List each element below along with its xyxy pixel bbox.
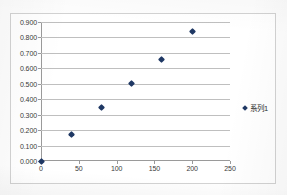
x-axis-tick-mark [154, 161, 155, 164]
data-point [98, 104, 105, 111]
y-axis-tick-label: 0.300 [20, 111, 37, 118]
chart-frame[interactable]: 0.0000.1000.2000.3000.4000.5000.6000.700… [10, 13, 276, 184]
gridline [41, 22, 230, 23]
x-axis-tick-mark [230, 161, 231, 164]
y-axis-tick-mark [38, 53, 41, 54]
y-axis-tick-mark [38, 68, 41, 69]
y-axis-tick-label: 0.100 [20, 142, 37, 149]
x-axis-tick-label: 250 [224, 165, 235, 172]
gridline [41, 115, 230, 116]
data-point [158, 56, 165, 63]
gridline [41, 53, 230, 54]
y-axis-tick-label: 0.700 [20, 49, 37, 56]
gridline [41, 37, 230, 38]
data-point [189, 28, 196, 35]
y-axis-tick-mark [38, 99, 41, 100]
y-axis-tick-mark [38, 115, 41, 116]
scanned-page: 0.0000.1000.2000.3000.4000.5000.6000.700… [0, 0, 287, 195]
plot-area: 0.0000.1000.2000.3000.4000.5000.6000.700… [41, 22, 230, 161]
gridline [41, 68, 230, 69]
x-axis-tick-mark [79, 161, 80, 164]
x-axis-tick-mark [192, 161, 193, 164]
y-axis-tick-mark [38, 146, 41, 147]
legend-entry-label: 系列1 [250, 102, 268, 113]
y-axis-tick-label: 0.400 [20, 96, 37, 103]
y-axis-tick-mark [38, 84, 41, 85]
y-axis-tick-label: 0.600 [20, 65, 37, 72]
y-axis-tick-mark [38, 130, 41, 131]
x-axis-tick-label: 150 [149, 165, 160, 172]
x-axis-line [41, 160, 230, 161]
y-axis-tick-label: 0.800 [20, 34, 37, 41]
chart-legend[interactable]: 系列1 [243, 102, 268, 113]
legend-marker-icon [242, 105, 248, 111]
y-axis-tick-label: 0.500 [20, 80, 37, 87]
x-axis-tick-label: 100 [111, 165, 122, 172]
gridline [41, 146, 230, 147]
gridline [41, 99, 230, 100]
data-point [37, 157, 44, 164]
y-axis-tick-label: 0.900 [20, 19, 37, 26]
x-axis-tick-label: 200 [186, 165, 197, 172]
gridline [41, 84, 230, 85]
gridline [41, 130, 230, 131]
data-point [128, 79, 135, 86]
y-axis-tick-label: 0.200 [20, 127, 37, 134]
x-axis-tick-label: 50 [75, 165, 83, 172]
y-axis-line [41, 22, 42, 161]
data-point [68, 131, 75, 138]
y-axis-tick-mark [38, 22, 41, 23]
x-axis-tick-mark [117, 161, 118, 164]
x-axis-tick-label: 0 [39, 165, 43, 172]
y-axis-tick-mark [38, 37, 41, 38]
y-axis-tick-label: 0.000 [20, 158, 37, 165]
